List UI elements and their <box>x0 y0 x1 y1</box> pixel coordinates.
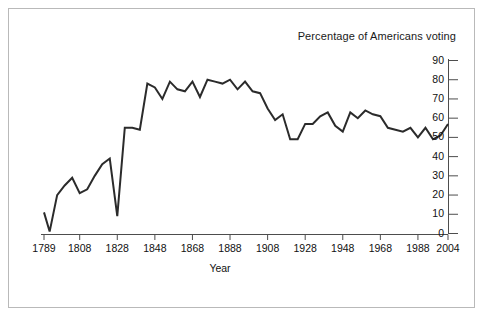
data-series-layer <box>44 80 448 232</box>
y-tick-label: 80 <box>422 74 444 85</box>
y-axis-ticks <box>449 61 459 234</box>
x-tick-label: 1808 <box>60 242 100 254</box>
x-axis-title: Year <box>0 262 440 274</box>
x-axis-ticks <box>44 235 448 241</box>
x-tick-label: 1908 <box>248 242 288 254</box>
x-tick-label: 1789 <box>24 242 64 254</box>
y-tick-label: 50 <box>422 131 444 142</box>
y-tick-label: 0 <box>422 228 444 239</box>
y-tick-label: 70 <box>422 93 444 104</box>
y-tick-label: 30 <box>422 170 444 181</box>
chart-figure: Percentage of Americans voting 010203040… <box>0 0 484 317</box>
x-tick-label: 1948 <box>323 242 363 254</box>
x-tick-label: 1848 <box>135 242 175 254</box>
x-tick-label: 1888 <box>210 242 250 254</box>
x-tick-label: 1828 <box>97 242 137 254</box>
x-tick-label: 1968 <box>360 242 400 254</box>
x-tick-label: 1928 <box>285 242 325 254</box>
x-tick-label: 1868 <box>172 242 212 254</box>
x-tick-label: 2004 <box>428 242 468 254</box>
y-tick-label: 40 <box>422 151 444 162</box>
y-tick-label: 20 <box>422 189 444 200</box>
axis-lines <box>41 59 449 235</box>
y-tick-label: 60 <box>422 112 444 123</box>
y-tick-label: 90 <box>422 55 444 66</box>
turnout-line <box>44 80 448 232</box>
y-tick-label: 10 <box>422 208 444 219</box>
